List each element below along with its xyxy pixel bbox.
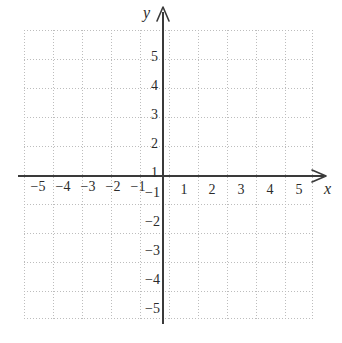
y-axis-label: y <box>143 4 150 22</box>
y-tick-label: 3 <box>151 108 158 122</box>
gridline-horizontal <box>24 59 313 60</box>
gridline-horizontal <box>24 30 313 31</box>
y-tick-label: −4 <box>145 273 160 287</box>
gridline-horizontal <box>24 233 313 234</box>
y-tick-label: 4 <box>151 79 158 93</box>
gridline-horizontal <box>24 262 313 263</box>
y-tick-label: 1 <box>151 166 158 180</box>
gridline-horizontal <box>24 88 313 89</box>
x-tick-label: 5 <box>296 183 303 197</box>
x-tick-label: 2 <box>209 183 216 197</box>
gridline-horizontal <box>24 204 313 205</box>
y-tick-label: −3 <box>145 244 160 258</box>
arrow-up-icon <box>154 4 172 22</box>
gridline-horizontal <box>24 146 313 147</box>
gridline-horizontal <box>24 291 313 292</box>
gridline-horizontal <box>24 117 313 118</box>
y-tick-label: −5 <box>145 302 160 316</box>
y-tick-label: 2 <box>151 137 158 151</box>
y-tick-label: −2 <box>145 215 160 229</box>
y-axis-line <box>162 12 164 324</box>
x-tick-label: −4 <box>56 180 71 194</box>
y-tick-label: 5 <box>151 50 158 64</box>
x-tick-label: −5 <box>31 180 46 194</box>
x-tick-label: 3 <box>238 183 245 197</box>
gridline-horizontal <box>24 318 313 319</box>
x-tick-label: 4 <box>267 183 274 197</box>
x-tick-label: −1 <box>131 180 146 194</box>
x-axis-label: x <box>324 180 331 198</box>
y-tick-label: −1 <box>145 186 160 200</box>
x-axis-line <box>18 175 324 177</box>
x-tick-label: −2 <box>106 180 121 194</box>
x-tick-label: −3 <box>81 180 96 194</box>
coordinate-plane: x y −5 −4 −3 −2 −1 1 2 3 4 5 5 4 3 2 1 −… <box>0 0 342 343</box>
x-tick-label: 1 <box>181 183 188 197</box>
